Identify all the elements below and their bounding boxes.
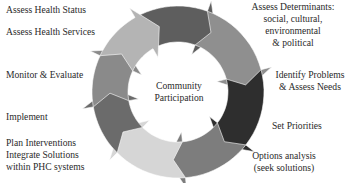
- determinants-line-4: & political: [243, 37, 343, 49]
- hub-line-1: Community: [148, 80, 210, 92]
- determinants-line-1: Assess Determinants:: [243, 1, 343, 13]
- label-assess-determinants: Assess Determinants: social, cultural, e…: [243, 1, 343, 49]
- determinants-line-2: social, cultural,: [243, 13, 343, 25]
- options-line-1: Options analysis: [244, 150, 324, 162]
- hub-line-2: Participation: [148, 92, 210, 104]
- label-identify-problems: Identify Problems & Assess Needs: [268, 69, 350, 93]
- label-set-priorities: Set Priorities: [272, 120, 322, 132]
- label-implement: Implement: [6, 111, 48, 123]
- options-line-2: (seek solutions): [244, 162, 324, 174]
- hub-label: Community Participation: [148, 80, 210, 104]
- plan-line-2: Integrate Solutions: [6, 149, 84, 161]
- label-options-analysis: Options analysis (seek solutions): [244, 150, 324, 174]
- plan-line-1: Plan Interventions: [6, 137, 84, 149]
- label-monitor-evaluate: Monitor & Evaluate: [6, 69, 83, 81]
- identify-line-1: Identify Problems: [268, 69, 350, 81]
- label-assess-health-status: Assess Health Status: [6, 4, 86, 16]
- determinants-line-3: environmental: [243, 25, 343, 37]
- identify-line-2: & Assess Needs: [268, 81, 350, 93]
- label-assess-health-services: Assess Health Services: [6, 26, 95, 38]
- plan-line-3: within PHC systems: [6, 161, 84, 173]
- label-plan-interventions: Plan Interventions Integrate Solutions w…: [6, 137, 84, 173]
